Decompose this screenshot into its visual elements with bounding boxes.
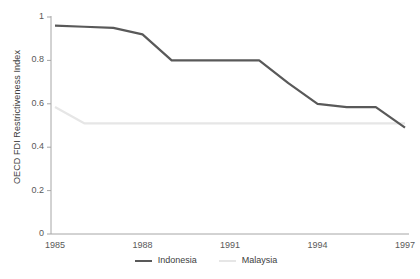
legend-item-indonesia[interactable]: Indonesia: [135, 256, 197, 265]
series-line-indonesia: [55, 26, 405, 128]
legend-label: Indonesia: [158, 256, 197, 265]
legend-label: Malaysia: [242, 256, 278, 265]
series-line-malaysia: [55, 107, 405, 123]
legend-line-icon: [135, 260, 152, 262]
legend-line-icon: [219, 260, 236, 262]
chart-legend: IndonesiaMalaysia: [0, 256, 412, 265]
legend-item-malaysia[interactable]: Malaysia: [219, 256, 278, 265]
